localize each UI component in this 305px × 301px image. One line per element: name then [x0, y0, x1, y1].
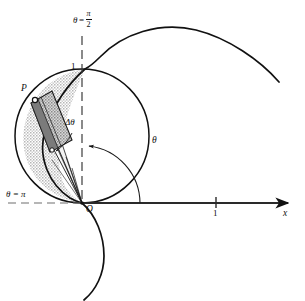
label-y-tick-one: 1	[71, 62, 76, 71]
sector-inner-marker	[50, 148, 54, 152]
label-origin: O	[86, 205, 93, 215]
theta-symbol: θ	[73, 16, 77, 25]
polar-diagram-figure: θ = π 2 θ = π P O 1 1 x θ Δθ	[0, 0, 305, 301]
equals-symbol: =	[79, 16, 84, 25]
label-theta-half-pi: θ = π 2	[73, 11, 92, 30]
label-theta-pi: θ = π	[6, 190, 26, 199]
label-theta-angle: θ	[152, 136, 157, 146]
pi-over-two-fraction: π 2	[86, 10, 92, 29]
origin-marker	[80, 201, 84, 205]
label-x-tick-one: 1	[213, 209, 218, 218]
label-delta-theta: Δθ	[65, 118, 75, 127]
spiral-curve	[43, 27, 279, 300]
label-point-p: P	[21, 84, 27, 94]
label-x-axis: x	[283, 209, 287, 219]
fraction-denominator: 2	[86, 21, 92, 29]
diagram-canvas	[0, 0, 305, 301]
fraction-numerator: π	[86, 10, 92, 18]
point-p-marker	[32, 97, 37, 102]
